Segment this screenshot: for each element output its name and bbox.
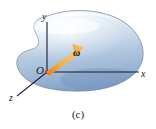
- y-axis-label: y: [42, 12, 46, 22]
- origin-label: O: [36, 65, 44, 76]
- x-axis-label: x: [141, 69, 145, 79]
- physics-figure: y x z O ω (c): [0, 0, 156, 129]
- figure-caption: (c): [0, 108, 156, 120]
- z-axis-label: z: [9, 93, 13, 103]
- omega-label: ω: [73, 48, 80, 58]
